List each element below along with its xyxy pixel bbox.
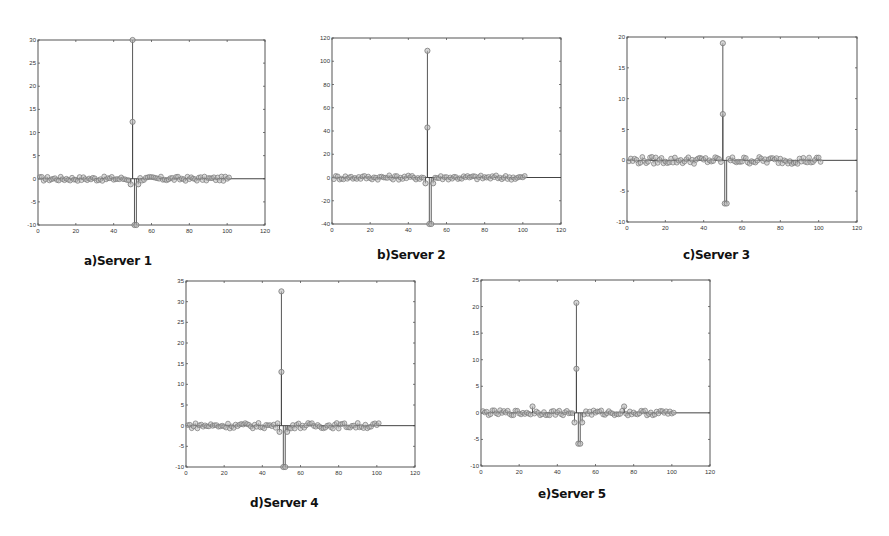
svg-text:-5: -5 bbox=[179, 443, 185, 449]
y-axis: -40-20020406080100120 bbox=[320, 35, 561, 227]
svg-text:80: 80 bbox=[323, 82, 330, 88]
svg-text:120: 120 bbox=[556, 227, 567, 233]
svg-text:0: 0 bbox=[184, 470, 188, 476]
svg-text:15: 15 bbox=[177, 361, 184, 367]
svg-text:20: 20 bbox=[516, 469, 523, 475]
svg-text:120: 120 bbox=[320, 35, 331, 41]
svg-text:35: 35 bbox=[177, 278, 184, 284]
caption-server-3: c)Server 3 bbox=[683, 248, 750, 262]
svg-text:80: 80 bbox=[630, 469, 637, 475]
caption-server-2: b)Server 2 bbox=[377, 248, 445, 262]
svg-text:60: 60 bbox=[592, 469, 599, 475]
y-axis: -10-5051015202530 bbox=[27, 37, 265, 228]
svg-text:10: 10 bbox=[618, 96, 625, 102]
svg-text:0: 0 bbox=[476, 410, 480, 416]
svg-text:15: 15 bbox=[472, 330, 479, 336]
svg-text:60: 60 bbox=[297, 470, 304, 476]
svg-text:10: 10 bbox=[29, 130, 36, 136]
svg-text:-40: -40 bbox=[321, 221, 330, 227]
svg-text:40: 40 bbox=[554, 469, 561, 475]
svg-text:15: 15 bbox=[618, 65, 625, 71]
chart-server-2: 020406080100120-40-20020406080100120 bbox=[332, 38, 561, 224]
svg-text:20: 20 bbox=[29, 83, 36, 89]
svg-text:60: 60 bbox=[148, 228, 155, 234]
svg-text:20: 20 bbox=[72, 228, 79, 234]
plot-area: 020406080100120-40-20020406080100120 bbox=[332, 38, 561, 224]
svg-text:120: 120 bbox=[852, 225, 863, 231]
x-axis: 020406080100120 bbox=[36, 40, 270, 234]
chart-server-3: 020406080100120-10-505101520 bbox=[627, 37, 857, 222]
svg-text:40: 40 bbox=[259, 470, 266, 476]
svg-text:40: 40 bbox=[110, 228, 117, 234]
svg-text:5: 5 bbox=[33, 153, 37, 159]
chart-server-5: 020406080100120-10-50510152025 bbox=[481, 280, 710, 466]
svg-text:100: 100 bbox=[320, 58, 331, 64]
chart-server-1: 020406080100120-10-5051015202530 bbox=[38, 40, 265, 225]
svg-text:0: 0 bbox=[622, 157, 626, 163]
svg-text:25: 25 bbox=[472, 277, 479, 283]
svg-text:80: 80 bbox=[335, 470, 342, 476]
x-axis: 020406080100120 bbox=[184, 281, 420, 476]
plot-area: 020406080100120-10-5051015202530 bbox=[38, 40, 265, 225]
svg-text:30: 30 bbox=[177, 299, 184, 305]
svg-text:100: 100 bbox=[667, 469, 678, 475]
plot-area: 020406080100120-10-505101520253035 bbox=[186, 281, 415, 467]
svg-text:20: 20 bbox=[221, 470, 228, 476]
plot-area: 020406080100120-10-50510152025 bbox=[481, 280, 710, 466]
data-points bbox=[37, 37, 231, 227]
svg-text:30: 30 bbox=[29, 37, 36, 43]
svg-text:25: 25 bbox=[29, 60, 36, 66]
svg-text:0: 0 bbox=[479, 469, 483, 475]
svg-text:-10: -10 bbox=[175, 464, 184, 470]
svg-text:20: 20 bbox=[323, 151, 330, 157]
svg-text:-20: -20 bbox=[321, 198, 330, 204]
svg-text:20: 20 bbox=[367, 227, 374, 233]
data-points bbox=[481, 300, 677, 446]
svg-text:40: 40 bbox=[700, 225, 707, 231]
svg-text:100: 100 bbox=[372, 470, 383, 476]
caption-server-5: e)Server 5 bbox=[538, 487, 606, 501]
chart-server-4: 020406080100120-10-505101520253035 bbox=[186, 281, 415, 467]
svg-text:0: 0 bbox=[330, 227, 334, 233]
caption-server-1: a)Server 1 bbox=[84, 254, 152, 268]
svg-text:0: 0 bbox=[33, 176, 37, 182]
x-axis: 020406080100120 bbox=[479, 280, 715, 475]
svg-text:10: 10 bbox=[177, 381, 184, 387]
svg-text:40: 40 bbox=[405, 227, 412, 233]
svg-text:120: 120 bbox=[260, 228, 271, 234]
svg-text:-10: -10 bbox=[27, 222, 36, 228]
svg-text:15: 15 bbox=[29, 106, 36, 112]
svg-text:5: 5 bbox=[181, 402, 185, 408]
x-axis: 020406080100120 bbox=[625, 37, 862, 231]
svg-text:100: 100 bbox=[222, 228, 233, 234]
svg-text:0: 0 bbox=[625, 225, 629, 231]
svg-text:80: 80 bbox=[777, 225, 784, 231]
svg-text:20: 20 bbox=[662, 225, 669, 231]
svg-text:20: 20 bbox=[618, 34, 625, 40]
y-axis: -10-505101520 bbox=[616, 34, 857, 225]
svg-text:100: 100 bbox=[814, 225, 825, 231]
svg-text:60: 60 bbox=[443, 227, 450, 233]
svg-text:120: 120 bbox=[705, 469, 716, 475]
caption-server-4: d)Server 4 bbox=[250, 496, 318, 510]
svg-text:5: 5 bbox=[476, 383, 480, 389]
svg-text:40: 40 bbox=[323, 128, 330, 134]
svg-text:-5: -5 bbox=[474, 436, 480, 442]
svg-text:-10: -10 bbox=[470, 463, 479, 469]
y-axis: -10-50510152025 bbox=[470, 277, 710, 469]
svg-text:20: 20 bbox=[472, 304, 479, 310]
svg-text:-5: -5 bbox=[620, 188, 626, 194]
svg-text:100: 100 bbox=[518, 227, 529, 233]
svg-text:10: 10 bbox=[472, 357, 479, 363]
data-points bbox=[186, 289, 382, 470]
svg-text:-10: -10 bbox=[616, 219, 625, 225]
data-points bbox=[332, 48, 528, 226]
svg-text:0: 0 bbox=[36, 228, 40, 234]
svg-text:0: 0 bbox=[181, 423, 185, 429]
plot-area: 020406080100120-10-505101520 bbox=[627, 37, 857, 222]
y-axis: -10-505101520253035 bbox=[175, 278, 415, 470]
svg-text:25: 25 bbox=[177, 319, 184, 325]
svg-text:0: 0 bbox=[327, 175, 331, 181]
svg-text:-5: -5 bbox=[31, 199, 37, 205]
svg-text:120: 120 bbox=[410, 470, 421, 476]
